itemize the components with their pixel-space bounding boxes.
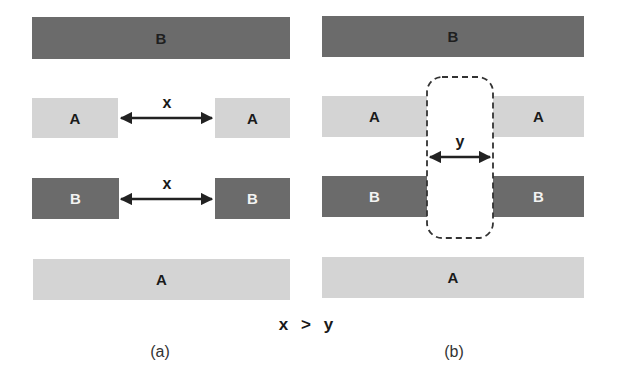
relation-operator: > <box>301 315 311 334</box>
relation-right: y <box>324 315 333 334</box>
relation-left: x <box>279 315 288 334</box>
relation-label: x > y <box>266 315 346 335</box>
